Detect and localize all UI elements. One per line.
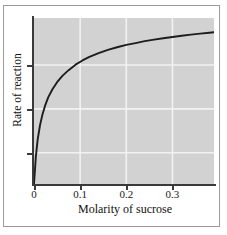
chart-figure: 00.10.20.3 Molarity of sucrose Rate of r…	[0, 0, 227, 235]
y-axis-tick-0	[27, 153, 33, 155]
x-axis-tick-label-3: 0.3	[158, 188, 186, 201]
plot-panel	[34, 18, 214, 184]
x-axis-tick-label-0: 0	[20, 188, 48, 201]
x-axis-tick-label-1: 0.1	[66, 188, 94, 201]
y-axis-line	[32, 16, 34, 186]
plot-svg	[34, 18, 214, 184]
y-axis-tick-2	[27, 65, 33, 67]
x-axis-line	[32, 184, 216, 186]
gridlines	[34, 18, 214, 184]
y-axis-tick-1	[27, 109, 33, 111]
x-axis-tick-label-2: 0.2	[112, 188, 140, 201]
y-axis-title: Rate of reaction	[11, 30, 23, 150]
x-axis-title: Molarity of sucrose	[34, 202, 216, 217]
